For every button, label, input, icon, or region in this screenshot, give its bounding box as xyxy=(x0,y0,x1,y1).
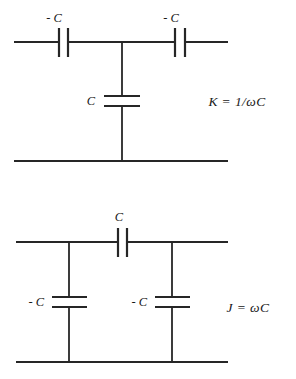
circuit-diagram-canvas: - C - C C K = 1/ωC xyxy=(0,0,296,379)
top-circuit-t-network: - C - C C K = 1/ωC xyxy=(14,11,266,161)
top-series-capacitor-left xyxy=(59,28,68,57)
bottom-shunt-capacitor-right xyxy=(155,297,190,307)
top-circuit-formula: K = 1/ωC xyxy=(207,94,266,109)
top-shunt-capacitor xyxy=(104,96,140,106)
top-series-capacitor-right-label: - C xyxy=(163,11,179,25)
bottom-shunt-capacitor-left-label: - C xyxy=(28,295,44,309)
bottom-series-capacitor-label: C xyxy=(115,210,124,224)
bottom-shunt-capacitor-left xyxy=(52,297,87,307)
circuit-figure: - C - C C K = 1/ωC xyxy=(0,0,296,379)
top-series-capacitor-left-label: - C xyxy=(46,11,62,25)
bottom-circuit-formula: J = ωC xyxy=(227,300,270,315)
top-shunt-capacitor-label: C xyxy=(87,94,96,108)
bottom-circuit-pi-network: C - C - C J = ωC xyxy=(16,210,270,362)
top-series-capacitor-right xyxy=(175,28,185,57)
bottom-series-capacitor xyxy=(118,228,127,257)
bottom-shunt-capacitor-right-label: - C xyxy=(131,295,147,309)
